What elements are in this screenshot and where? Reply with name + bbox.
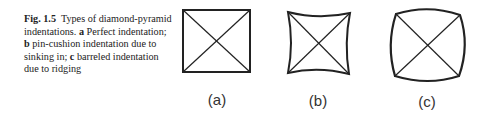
- panel-c-label: (c): [418, 93, 436, 110]
- panel-c-barreled-indentation: [391, 9, 465, 81]
- panel-b-label: (b): [309, 92, 327, 109]
- panel-a-perfect-indentation: [183, 10, 250, 72]
- indentation-figure: (a) (b) (c): [0, 0, 488, 115]
- panel-a-label: (a): [208, 91, 226, 108]
- panel-b-pin-cushion-indentation: [288, 12, 350, 74]
